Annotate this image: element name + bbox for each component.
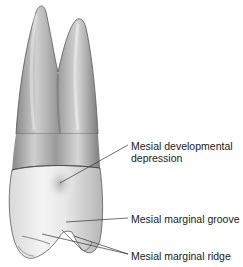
tooth-crown: [9, 164, 102, 258]
label-mesial-marginal-ridge: Mesial marginal ridge: [131, 250, 231, 262]
label-line-2: depression: [131, 152, 233, 164]
label-line-1: Mesial developmental: [131, 140, 233, 152]
tooth-roots: [16, 6, 98, 134]
label-mesial-marginal-groove: Mesial marginal groove: [131, 213, 240, 225]
tooth-illustration: [0, 0, 243, 267]
label-mesial-developmental-depression: Mesial developmental depression: [131, 140, 233, 164]
